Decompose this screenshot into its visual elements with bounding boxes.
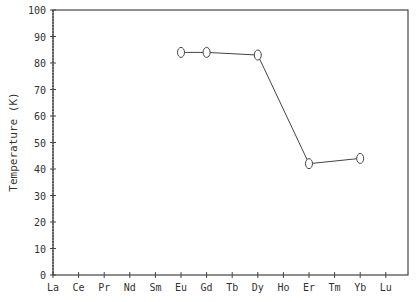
- x-tick-label: Dy: [252, 282, 264, 293]
- x-tick-label: Ho: [277, 282, 289, 293]
- plot-axes: [53, 10, 408, 275]
- y-axis-label: Temperature (K): [7, 92, 20, 191]
- x-tick-label: Nd: [124, 282, 136, 293]
- data-point-marker: [306, 159, 313, 169]
- plot-frame: [53, 10, 408, 275]
- y-tick-label: 70: [34, 85, 46, 96]
- x-tick-label: Er: [303, 282, 315, 293]
- y-tick-label: 20: [34, 217, 46, 228]
- series-line: [181, 52, 360, 163]
- y-tick-label: 100: [28, 5, 46, 16]
- y-tick-label: 30: [34, 191, 46, 202]
- x-tick-label: Pr: [98, 282, 110, 293]
- x-tick-label: Sm: [149, 282, 161, 293]
- y-tick-label: 60: [34, 111, 46, 122]
- x-tick-label: Lu: [380, 282, 392, 293]
- data-point-marker: [203, 47, 210, 57]
- x-tick-label: La: [47, 282, 59, 293]
- line-chart: 0102030405060708090100 LaCePrNdSmEuGdTbD…: [0, 0, 417, 302]
- y-tick-label: 50: [34, 138, 46, 149]
- x-tick-label: Eu: [175, 282, 187, 293]
- x-tick-label: Gd: [201, 282, 213, 293]
- data-point-marker: [254, 50, 261, 60]
- y-axis-ticks: 0102030405060708090100: [28, 5, 56, 281]
- x-tick-label: Tb: [226, 282, 238, 293]
- x-tick-label: Tm: [329, 282, 341, 293]
- y-tick-label: 80: [34, 58, 46, 69]
- data-point-marker: [357, 153, 364, 163]
- x-tick-label: Ce: [73, 282, 85, 293]
- data-point-marker: [178, 47, 185, 57]
- data-series: [178, 47, 364, 168]
- y-tick-label: 0: [40, 270, 46, 281]
- y-tick-label: 10: [34, 244, 46, 255]
- x-tick-label: Yb: [354, 282, 366, 293]
- y-tick-label: 90: [34, 32, 46, 43]
- y-tick-label: 40: [34, 164, 46, 175]
